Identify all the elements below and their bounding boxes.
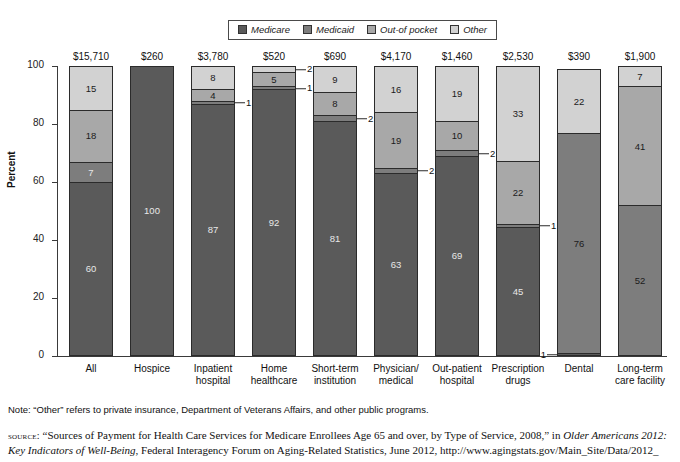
bar-segment[interactable]: 4 bbox=[191, 89, 235, 101]
legend-item-label: Other bbox=[463, 25, 487, 35]
y-axis-title: Percent bbox=[6, 151, 17, 188]
bar-segment[interactable]: 19 bbox=[435, 66, 479, 121]
x-axis-line bbox=[57, 356, 667, 357]
y-axis-tick: 80 bbox=[52, 124, 57, 125]
segment-value-label: 1 bbox=[307, 84, 312, 94]
y-axis-line bbox=[57, 66, 58, 356]
bar-segment[interactable]: 22 bbox=[496, 161, 540, 224]
y-axis-tick-label: 100 bbox=[27, 59, 44, 70]
legend-item[interactable]: Medicare bbox=[238, 25, 290, 35]
bar-total-label: $2,530 bbox=[503, 51, 534, 62]
bar-total-label: $390 bbox=[568, 51, 590, 62]
legend-swatch-icon bbox=[450, 25, 459, 34]
bar-segment[interactable]: 92 bbox=[252, 89, 296, 356]
legend-item[interactable]: Out-of pocket bbox=[367, 25, 437, 35]
segment-value-label: 2 bbox=[490, 149, 495, 159]
bar-stack: 98281 bbox=[313, 66, 357, 356]
y-axis-tick-label: 20 bbox=[33, 291, 44, 302]
segment-value-label: 60 bbox=[86, 264, 97, 274]
y-axis-tick-label: 60 bbox=[33, 175, 44, 186]
category-label-line: drugs bbox=[480, 375, 556, 387]
bar-stack: 1619263 bbox=[374, 66, 418, 356]
bar-segment[interactable]: 52 bbox=[618, 205, 662, 356]
y-axis-tick: 60 bbox=[52, 182, 57, 183]
chart-legend: MedicareMedicaidOut-of pocketOther bbox=[228, 20, 497, 40]
chart-note: Note: “Other” refers to private insuranc… bbox=[8, 404, 429, 415]
bar-group[interactable]: $3,78084187Inpatienthospital bbox=[191, 66, 235, 356]
legend-item[interactable]: Medicaid bbox=[303, 25, 354, 35]
bar-stack: 74152 bbox=[618, 66, 662, 356]
bar-segment[interactable]: 41 bbox=[618, 86, 662, 205]
bar-segment[interactable]: 15 bbox=[69, 66, 113, 110]
bar-segment[interactable]: 100 bbox=[130, 66, 174, 356]
bar-group[interactable]: $1,90074152Long-termcare facility bbox=[618, 66, 662, 356]
y-axis-tick: 0 bbox=[52, 356, 57, 357]
bar-segment[interactable]: 22 bbox=[557, 69, 601, 133]
segment-callout: 2 bbox=[295, 65, 312, 75]
segment-value-label: 76 bbox=[574, 239, 585, 249]
callout-leader-line bbox=[234, 102, 245, 103]
y-axis-tick-label: 80 bbox=[33, 117, 44, 128]
plot-area: 020406080100 $15,7101518760All$260100Hos… bbox=[57, 66, 667, 356]
bar-segment[interactable]: 45 bbox=[496, 227, 540, 356]
segment-callout: 2 bbox=[478, 149, 495, 159]
bar-segment[interactable]: 1 bbox=[557, 353, 601, 356]
bar-segment[interactable]: 7 bbox=[618, 66, 662, 86]
bar-group[interactable]: $260100Hospice bbox=[130, 66, 174, 356]
segment-value-label: 10 bbox=[452, 131, 463, 141]
source-text-part2: , Federal Interagency Forum on Aging-Rel… bbox=[136, 444, 659, 456]
bar-segment[interactable]: 60 bbox=[69, 182, 113, 356]
segment-value-label: 41 bbox=[635, 142, 646, 152]
bar-segment[interactable]: 69 bbox=[435, 156, 479, 356]
segment-callout: 2 bbox=[356, 114, 373, 124]
segment-callout: 1 bbox=[541, 350, 558, 360]
segment-value-label: 5 bbox=[271, 75, 276, 85]
bar-total-label: $15,710 bbox=[73, 51, 109, 62]
y-axis-tick: 100 bbox=[52, 66, 57, 67]
bar-segment[interactable]: 9 bbox=[313, 66, 357, 92]
bar-segment[interactable]: 33 bbox=[496, 66, 540, 161]
bar-segment[interactable]: 8 bbox=[191, 66, 235, 89]
segment-callout: 2 bbox=[417, 166, 434, 176]
x-axis-category-label: Long-termcare facility bbox=[602, 363, 678, 386]
bar-group[interactable]: $52025192Homehealthcare bbox=[252, 66, 296, 356]
segment-value-label: 1 bbox=[541, 350, 546, 360]
legend-item-label: Out-of pocket bbox=[380, 25, 437, 35]
category-label-line: care facility bbox=[602, 375, 678, 387]
bar-group[interactable]: $69098281Short-terminstitution bbox=[313, 66, 357, 356]
source-text-part1: “Sources of Payment for Health Care Serv… bbox=[40, 429, 563, 441]
bar-group[interactable]: $4,1701619263Physician/medical bbox=[374, 66, 418, 356]
bar-segment[interactable]: 81 bbox=[313, 121, 357, 356]
segment-value-label: 15 bbox=[86, 84, 97, 94]
bar-segment[interactable]: 8 bbox=[313, 92, 357, 115]
callout-leader-line bbox=[478, 153, 489, 154]
callout-leader-line bbox=[417, 170, 428, 171]
bar-group[interactable]: $1,4601910269Out-patienthospital bbox=[435, 66, 479, 356]
segment-value-label: 1 bbox=[551, 221, 556, 231]
segment-value-label: 19 bbox=[452, 89, 463, 99]
segment-value-label: 22 bbox=[513, 188, 524, 198]
segment-value-label: 45 bbox=[513, 287, 524, 297]
segment-value-label: 22 bbox=[574, 97, 585, 107]
segment-value-label: 19 bbox=[391, 136, 402, 146]
segment-value-label: 9 bbox=[332, 75, 337, 85]
y-axis-tick-label: 0 bbox=[38, 349, 44, 360]
bar-segment[interactable]: 76 bbox=[557, 133, 601, 353]
bar-group[interactable]: $39022761Dental bbox=[557, 66, 601, 356]
bar-segment[interactable]: 63 bbox=[374, 173, 418, 356]
segment-value-label: 33 bbox=[513, 109, 524, 119]
bar-group[interactable]: $2,5303322145Prescriptiondrugs bbox=[496, 66, 540, 356]
bar-segment[interactable]: 16 bbox=[374, 66, 418, 112]
bar-segment[interactable]: 87 bbox=[191, 104, 235, 356]
bar-segment[interactable]: 7 bbox=[69, 162, 113, 182]
legend-item[interactable]: Other bbox=[450, 25, 487, 35]
bar-segment[interactable]: 5 bbox=[252, 72, 296, 87]
bar-segment[interactable]: 10 bbox=[435, 121, 479, 150]
bar-segment[interactable]: 18 bbox=[69, 110, 113, 162]
bar-stack: 1518760 bbox=[69, 66, 113, 356]
bar-group[interactable]: $15,7101518760All bbox=[69, 66, 113, 356]
bar-segment[interactable]: 19 bbox=[374, 112, 418, 167]
bar-total-label: $1,460 bbox=[442, 51, 473, 62]
legend-swatch-icon bbox=[303, 25, 312, 34]
bar-stack: 100 bbox=[130, 66, 174, 356]
